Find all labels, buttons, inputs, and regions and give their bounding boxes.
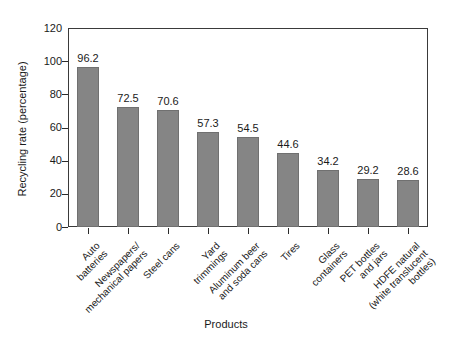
x-axis-tick-mark bbox=[88, 228, 89, 234]
x-axis-tick-labels: Auto batteriesNewspapers/ mechanical pap… bbox=[0, 0, 452, 345]
x-axis-title: Products bbox=[0, 318, 452, 331]
y-axis-tick-mark bbox=[62, 194, 68, 195]
y-axis-tick-mark bbox=[62, 61, 68, 62]
x-axis-tick-mark bbox=[368, 228, 369, 234]
recycling-rate-bar-chart: Recycling rate (percentage) 020406080100… bbox=[0, 0, 452, 345]
y-axis-tick-mark bbox=[62, 128, 68, 129]
x-axis-tick-mark bbox=[128, 228, 129, 234]
y-axis-tick-mark bbox=[62, 94, 68, 95]
y-axis-tick-mark bbox=[62, 227, 68, 228]
x-axis-tick-mark bbox=[248, 228, 249, 234]
x-axis-tick-mark bbox=[288, 228, 289, 234]
x-axis-tick-mark bbox=[328, 228, 329, 234]
y-axis-tick-mark bbox=[62, 161, 68, 162]
x-axis-tick-mark bbox=[168, 228, 169, 234]
x-axis-tick-mark bbox=[208, 228, 209, 234]
x-axis-tick-mark bbox=[408, 228, 409, 234]
